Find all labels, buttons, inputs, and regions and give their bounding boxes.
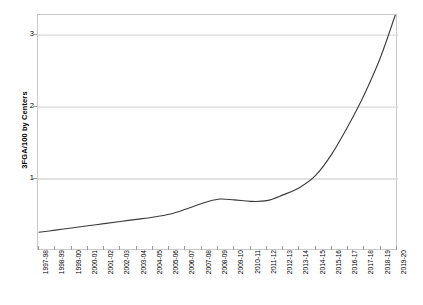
plot-area: [37, 14, 397, 250]
x-axis-tick-mark: [250, 246, 251, 250]
x-axis-tick-label: 1999-00: [74, 250, 83, 296]
x-axis-tick-mark: [38, 246, 39, 250]
x-axis-tick-label: 1997-98: [41, 250, 50, 296]
x-axis-tick-label: 2005-06: [171, 250, 180, 296]
x-axis-tick-label: 2011-12: [269, 250, 278, 296]
x-axis-tick-label: 2001-02: [106, 250, 115, 296]
x-axis-tick-label: 2003-04: [139, 250, 148, 296]
x-axis-tick-mark: [315, 246, 316, 250]
x-axis-tick-label: 2012-13: [285, 250, 294, 296]
x-axis-tick-mark: [168, 246, 169, 250]
x-axis-tick-mark: [201, 246, 202, 250]
x-axis-tick-label: 2002-03: [122, 250, 131, 296]
x-axis-tick-label: 1998-99: [57, 250, 66, 296]
x-axis-tick-mark: [233, 246, 234, 250]
x-axis-tick-mark: [184, 246, 185, 250]
y-axis-tick-labels: 123: [22, 0, 34, 305]
x-axis-tick-label: 2007-08: [204, 250, 213, 296]
x-axis-tick-mark: [331, 246, 332, 250]
gridlines: [38, 35, 398, 179]
x-axis-tick-mark: [71, 246, 72, 250]
x-axis-tick-label: 2015-16: [334, 250, 343, 296]
x-axis-tick-label: 2006-07: [187, 250, 196, 296]
x-axis-tick-mark: [119, 246, 120, 250]
x-axis-tick-label: 2004-05: [155, 250, 164, 296]
x-axis-tick-mark: [136, 246, 137, 250]
x-axis-tick-mark: [298, 246, 299, 250]
x-axis-tick-label: 2013-14: [301, 250, 310, 296]
x-axis-tick-label: 2008-09: [220, 250, 229, 296]
x-axis-tick-mark: [266, 246, 267, 250]
x-axis-tick-mark: [396, 246, 397, 250]
x-axis-tick-mark: [363, 246, 364, 250]
chart-figure: 3FGA/100 by Centers 123 1997-981998-9919…: [0, 0, 423, 305]
x-axis-tick-label: 2019-20: [399, 250, 408, 296]
x-axis-tick-label: 2010-11: [253, 250, 262, 296]
x-axis-tick-label: 2017-18: [366, 250, 375, 296]
x-axis-tick-label: 2018-19: [383, 250, 392, 296]
x-axis-tick-mark: [54, 246, 55, 250]
data-series-line: [39, 15, 397, 232]
x-axis-tick-label: 2000-01: [90, 250, 99, 296]
x-axis-tick-labels: 1997-981998-991999-002000-012001-022002-…: [37, 250, 397, 305]
x-axis-tick-mark: [103, 246, 104, 250]
x-axis-tick-mark: [347, 246, 348, 250]
x-axis-tick-label: 2009-10: [236, 250, 245, 296]
x-axis-tick-mark: [217, 246, 218, 250]
x-axis-tick-mark: [87, 246, 88, 250]
x-axis-tick-mark: [380, 246, 381, 250]
x-axis-tick-label: 2014-15: [318, 250, 327, 296]
x-axis-tick-mark: [152, 246, 153, 250]
x-axis-tick-label: 2016-17: [350, 250, 359, 296]
x-axis-tick-mark: [282, 246, 283, 250]
plot-svg: [38, 15, 398, 251]
